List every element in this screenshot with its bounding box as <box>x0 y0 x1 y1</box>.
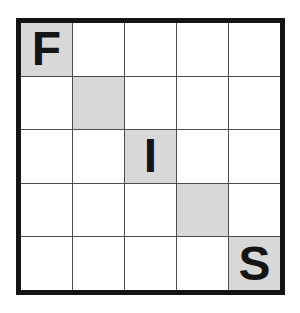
grid-cell-r3c1[interactable] <box>73 184 124 237</box>
grid-cell-r4c2[interactable] <box>125 237 176 290</box>
grid-cell-r0c2[interactable] <box>125 23 176 76</box>
grid-cell-r0c3[interactable] <box>177 23 228 76</box>
grid-cell-r2c2[interactable]: I <box>125 130 176 183</box>
grid-cell-r1c1[interactable] <box>73 77 124 130</box>
cell-letter: F <box>32 25 61 73</box>
grid-cell-r0c0[interactable]: F <box>21 23 72 76</box>
grid-cell-r3c2[interactable] <box>125 184 176 237</box>
grid-cell-r2c0[interactable] <box>21 130 72 183</box>
grid-cell-r3c3[interactable] <box>177 184 228 237</box>
grid-cell-r4c4[interactable]: S <box>229 237 280 290</box>
grid-cell-r3c4[interactable] <box>229 184 280 237</box>
grid-cell-r0c4[interactable] <box>229 23 280 76</box>
grid-cell-r4c1[interactable] <box>73 237 124 290</box>
grid-cell-r1c2[interactable] <box>125 77 176 130</box>
grid-cell-r2c4[interactable] <box>229 130 280 183</box>
grid-cell-r1c3[interactable] <box>177 77 228 130</box>
grid-cell-r0c1[interactable] <box>73 23 124 76</box>
puzzle-page: F I S <box>0 0 300 313</box>
cell-letter: S <box>238 240 270 288</box>
grid-cell-r1c4[interactable] <box>229 77 280 130</box>
grid-cell-r1c0[interactable] <box>21 77 72 130</box>
cell-letter: I <box>144 132 157 180</box>
grid-cell-r4c3[interactable] <box>177 237 228 290</box>
grid-cell-r3c0[interactable] <box>21 184 72 237</box>
grid-cell-r4c0[interactable] <box>21 237 72 290</box>
puzzle-grid: F I S <box>16 18 285 295</box>
grid-cell-r2c3[interactable] <box>177 130 228 183</box>
grid-cell-r2c1[interactable] <box>73 130 124 183</box>
